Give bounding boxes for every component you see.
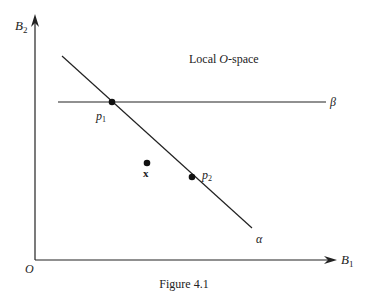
figure-diagram: B2 B1 O Local O-space β α p1 p2 x Figure… [0,0,366,294]
point-p1 [109,99,116,106]
p1-label: p1 [95,109,106,124]
line-alpha [62,56,252,228]
y-axis-label: B2 [15,18,27,35]
x-point-label: x [143,167,149,179]
region-label: Local O-space [189,52,259,66]
figure-caption: Figure 4.1 [159,277,208,291]
origin-label: O [25,262,34,276]
point-p2 [189,174,196,181]
beta-label: β [329,95,336,109]
point-x [144,160,151,167]
alpha-label: α [256,232,263,246]
p2-label: p2 [201,168,212,183]
x-axis-label: B1 [341,252,353,269]
